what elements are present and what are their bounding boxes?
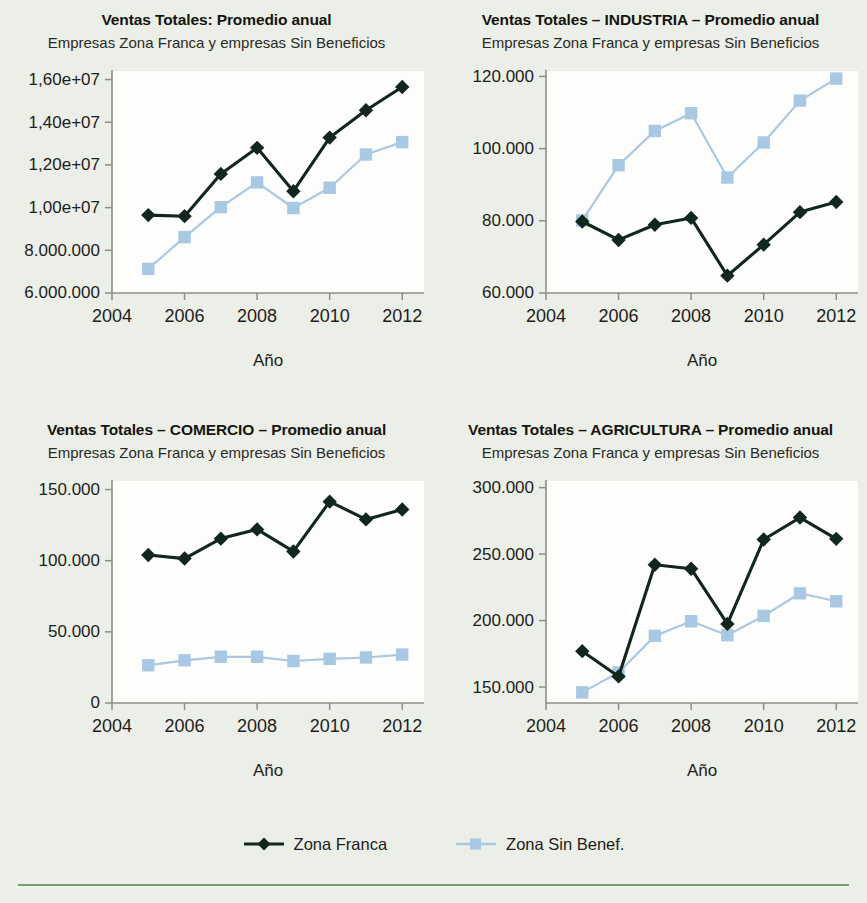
chart-title-industria: Ventas Totales – INDUSTRIA – Promedio an… (434, 10, 867, 31)
data-point-zona-sin-benef (142, 659, 154, 671)
x-tick-label: 2004 (92, 716, 132, 736)
chart-header-agricultura: Ventas Totales – AGRICULTURA – Promedio … (434, 410, 867, 463)
data-point-zona-sin-benef (215, 650, 227, 662)
x-tick-label: 2012 (382, 716, 422, 736)
chart-header-industria: Ventas Totales – INDUSTRIA – Promedio an… (434, 0, 867, 53)
y-tick-label: 6.000.000 (24, 283, 100, 302)
chart-subtitle-comercio: Empresas Zona Franca y empresas Sin Bene… (0, 442, 433, 463)
data-point-zona-sin-benef (142, 263, 154, 275)
data-point-zona-sin-benef (251, 650, 263, 662)
data-point-zona-sin-benef (757, 136, 769, 148)
data-point-zona-sin-benef (287, 655, 299, 667)
data-point-zona-sin-benef (576, 686, 588, 698)
x-tick-label: 2010 (310, 306, 350, 326)
plot-svg-general: 6.000.0008.000.0001,00e+071,20e+071,40e+… (0, 53, 433, 383)
x-tick-label: 2012 (816, 306, 856, 326)
x-tick-label: 2004 (92, 306, 132, 326)
x-tick-label: 2010 (744, 306, 784, 326)
x-axis-name: Año (687, 351, 717, 370)
x-tick-label: 2006 (599, 716, 639, 736)
chart-grid: Ventas Totales: Promedio anual Empresas … (0, 0, 867, 820)
x-axis-name: Año (253, 351, 283, 370)
data-point-zona-sin-benef (794, 587, 806, 599)
data-point-zona-sin-benef (360, 651, 372, 663)
legend-label-zona-franca: Zona Franca (294, 835, 388, 854)
data-point-zona-sin-benef (721, 171, 733, 183)
data-point-zona-sin-benef (287, 202, 299, 214)
x-tick-label: 2006 (599, 306, 639, 326)
chart-subtitle-general: Empresas Zona Franca y empresas Sin Bene… (0, 32, 433, 53)
y-tick-label: 1,40e+07 (29, 113, 100, 132)
y-tick-label: 100.000 (473, 139, 534, 158)
x-tick-label: 2010 (310, 716, 350, 736)
chart-title-agricultura: Ventas Totales – AGRICULTURA – Promedio … (434, 420, 867, 441)
y-tick-label: 1,20e+07 (29, 155, 100, 174)
x-axis-name: Año (687, 761, 717, 780)
data-point-zona-sin-benef (649, 630, 661, 642)
x-tick-label: 2006 (165, 306, 205, 326)
data-point-zona-sin-benef (685, 107, 697, 119)
chart-header-general: Ventas Totales: Promedio anual Empresas … (0, 0, 433, 53)
chart-subtitle-industria: Empresas Zona Franca y empresas Sin Bene… (434, 32, 867, 53)
legend-item-zona-sin-benef[interactable]: Zona Sin Benef. (455, 835, 624, 854)
x-tick-label: 2012 (382, 306, 422, 326)
data-point-zona-sin-benef (649, 125, 661, 137)
x-tick-label: 2008 (671, 716, 711, 736)
plot-area-general: 6.000.0008.000.0001,00e+071,20e+071,40e+… (0, 53, 433, 383)
plot-background (112, 481, 424, 703)
legend-marker-diamond-icon (243, 835, 285, 853)
legend-item-zona-franca[interactable]: Zona Franca (243, 835, 388, 854)
chart-panel-industria: Ventas Totales – INDUSTRIA – Promedio an… (434, 0, 867, 410)
chart-panel-general: Ventas Totales: Promedio anual Empresas … (0, 0, 433, 410)
data-point-zona-sin-benef (323, 181, 335, 193)
y-tick-label: 0 (91, 693, 100, 712)
data-point-zona-sin-benef (178, 654, 190, 666)
y-tick-label: 250.000 (473, 545, 534, 564)
plot-background (546, 481, 858, 703)
data-point-zona-sin-benef (794, 94, 806, 106)
legend-marker-square-icon (455, 835, 497, 853)
x-tick-label: 2006 (165, 716, 205, 736)
data-point-zona-sin-benef (396, 648, 408, 660)
data-point-zona-sin-benef (396, 136, 408, 148)
data-point-zona-sin-benef (830, 595, 842, 607)
y-tick-label: 1,00e+07 (29, 198, 100, 217)
bottom-rule (18, 884, 849, 886)
y-tick-label: 60.000 (482, 283, 534, 302)
data-point-zona-sin-benef (251, 176, 263, 188)
plot-area-comercio: 050.000100.000150.0002004200620082010201… (0, 463, 433, 793)
chart-title-comercio: Ventas Totales – COMERCIO – Promedio anu… (0, 420, 433, 441)
plot-background (546, 71, 858, 293)
y-tick-label: 150.000 (473, 677, 534, 696)
y-tick-label: 200.000 (473, 611, 534, 630)
chart-panel-agricultura: Ventas Totales – AGRICULTURA – Promedio … (434, 410, 867, 820)
x-tick-label: 2012 (816, 716, 856, 736)
data-point-zona-sin-benef (360, 148, 372, 160)
data-point-zona-sin-benef (323, 653, 335, 665)
x-tick-label: 2008 (237, 306, 277, 326)
data-point-zona-sin-benef (178, 231, 190, 243)
chart-subtitle-agricultura: Empresas Zona Franca y empresas Sin Bene… (434, 442, 867, 463)
y-tick-label: 8.000.000 (24, 241, 100, 260)
plot-area-industria: 60.00080.000100.000120.00020042006200820… (434, 53, 867, 383)
figure-page: Ventas Totales: Promedio anual Empresas … (0, 0, 867, 903)
y-tick-label: 50.000 (48, 622, 100, 641)
chart-panel-comercio: Ventas Totales – COMERCIO – Promedio anu… (0, 410, 433, 820)
chart-header-comercio: Ventas Totales – COMERCIO – Promedio anu… (0, 410, 433, 463)
data-point-zona-sin-benef (612, 159, 624, 171)
plot-svg-agricultura: 150.000200.000250.000300.000200420062008… (434, 463, 867, 793)
data-point-zona-sin-benef (215, 201, 227, 213)
data-point-zona-sin-benef (685, 615, 697, 627)
plot-area-agricultura: 150.000200.000250.000300.000200420062008… (434, 463, 867, 793)
x-tick-label: 2008 (671, 306, 711, 326)
y-tick-label: 100.000 (39, 551, 100, 570)
chart-title-general: Ventas Totales: Promedio anual (0, 10, 433, 31)
data-point-zona-sin-benef (830, 72, 842, 84)
plot-svg-comercio: 050.000100.000150.0002004200620082010201… (0, 463, 433, 793)
x-axis-name: Año (253, 761, 283, 780)
y-tick-label: 150.000 (39, 480, 100, 499)
y-tick-label: 1,60e+07 (29, 70, 100, 89)
data-point-zona-sin-benef (757, 610, 769, 622)
x-tick-label: 2010 (744, 716, 784, 736)
plot-svg-industria: 60.00080.000100.000120.00020042006200820… (434, 53, 867, 383)
